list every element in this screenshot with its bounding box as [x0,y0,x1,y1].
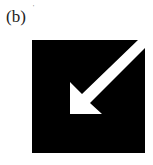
prime-mark: ' [33,4,34,10]
arrow-down-left-icon [32,40,145,153]
panel-label: (b) [6,7,26,27]
